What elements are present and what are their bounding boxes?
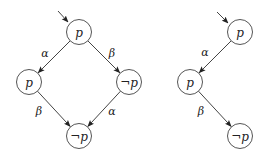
kripke-diagrams: pp¬p¬ppp¬p αββααβ	[0, 0, 268, 155]
left-diagram-initial-arrow	[58, 11, 68, 22]
state-node: p	[17, 70, 42, 95]
state-node: p	[67, 20, 92, 45]
state-node: ¬p	[228, 124, 253, 149]
edge-label: α	[201, 46, 209, 59]
state-label: p	[75, 26, 83, 40]
state-label: p	[186, 76, 194, 90]
state-label: ¬p	[120, 76, 138, 90]
edge-label: β	[108, 47, 115, 60]
state-node: ¬p	[117, 70, 142, 95]
left-diagram-edge-n1-n3	[37, 91, 70, 126]
edge-label: α	[108, 105, 116, 118]
edge-label: β	[197, 105, 204, 118]
edge-label: β	[35, 105, 42, 118]
state-label: p	[25, 76, 33, 90]
state-label: p	[236, 26, 244, 40]
edge-label: α	[41, 47, 49, 60]
state-node: p	[178, 70, 203, 95]
state-label: ¬p	[231, 130, 249, 144]
state-node: ¬p	[67, 124, 92, 149]
state-label: ¬p	[70, 130, 88, 144]
right-diagram-initial-arrow	[217, 12, 228, 23]
state-node: p	[228, 20, 253, 45]
